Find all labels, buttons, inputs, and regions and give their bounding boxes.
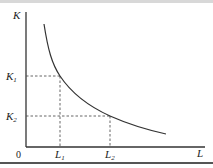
- l2-label: L2: [104, 148, 115, 162]
- diagram-canvas: K L 0 K1 K2 L1 L2: [0, 0, 213, 168]
- y-axis-label: K: [12, 9, 21, 21]
- isoquant-curve: [44, 24, 166, 134]
- bottom-rule: [0, 162, 213, 164]
- k2-label: K2: [5, 110, 17, 124]
- isoquant-diagram: K L 0 K1 K2 L1 L2: [0, 0, 213, 168]
- x-axis-label: L: [196, 147, 203, 159]
- l1-label: L1: [54, 148, 65, 162]
- k1-label: K1: [5, 70, 17, 84]
- origin-label: 0: [16, 149, 21, 160]
- top-strip: [0, 0, 213, 3]
